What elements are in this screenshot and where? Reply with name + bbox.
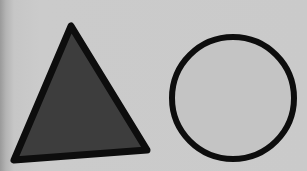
- photo-canvas: [0, 0, 307, 171]
- dark-triangle: [14, 26, 147, 160]
- shapes-drawing: [0, 0, 307, 171]
- light-circle: [172, 37, 294, 159]
